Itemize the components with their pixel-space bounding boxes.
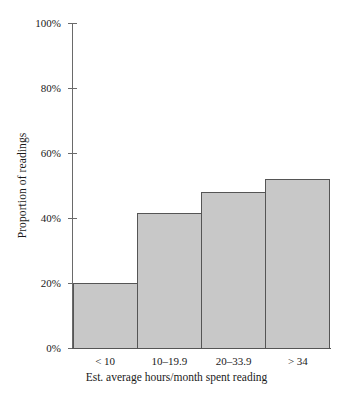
bar-chart-figure: Proportion of readings 100% 80% 60% 40% … [0, 0, 353, 393]
y-tick-label-60: 60% [15, 148, 61, 159]
plot-area [73, 23, 330, 348]
bars-container [73, 23, 330, 348]
x-tick-label-1: 10–19.9 [137, 352, 201, 370]
y-tick-label-0: 0% [15, 343, 61, 354]
y-tick-label-80: 80% [15, 83, 61, 94]
x-tick-label-0: < 10 [73, 352, 137, 370]
bar-category-3 [265, 179, 330, 348]
bar-category-1 [137, 213, 202, 348]
y-tick-label-20: 20% [15, 278, 61, 289]
x-axis-tick-labels: < 10 10–19.9 20–33.9 > 34 [73, 352, 330, 370]
x-tick-label-3: > 34 [266, 352, 330, 370]
x-axis-title: Est. average hours/month spent reading [0, 370, 353, 384]
y-tick-label-40: 40% [15, 213, 61, 224]
y-tick-label-100: 100% [15, 18, 61, 29]
y-axis-title: Proportion of readings [10, 23, 33, 348]
bar-category-0 [73, 283, 138, 348]
x-tick-label-2: 20–33.9 [202, 352, 266, 370]
x-axis-line [72, 348, 331, 349]
bar-category-2 [201, 192, 266, 348]
